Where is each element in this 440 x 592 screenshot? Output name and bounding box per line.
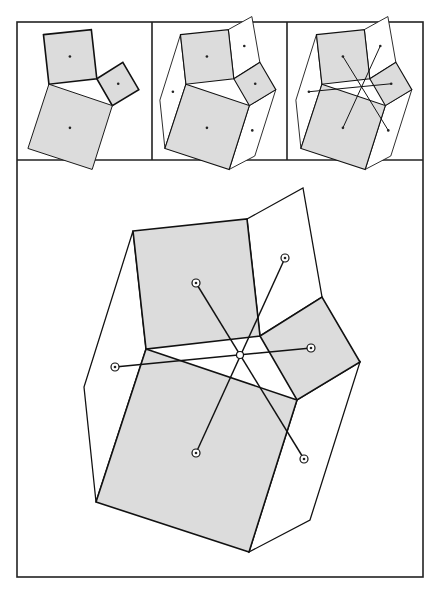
upper-right-quad-center <box>379 45 382 48</box>
bottom-square-center-dot <box>195 452 198 455</box>
top-square-center <box>69 55 72 58</box>
bottom-square-center <box>342 127 345 130</box>
diagram <box>0 0 440 592</box>
panel-main <box>84 188 360 552</box>
panel-3 <box>296 17 412 170</box>
panel-1 <box>28 30 139 170</box>
upper-right-quad-center-dot <box>284 257 287 260</box>
lower-right-quad-center <box>251 129 254 132</box>
left-quad-center-dot <box>114 366 117 369</box>
upper-right-quad-center <box>243 45 246 48</box>
left-quad-center <box>172 90 175 93</box>
panel-2 <box>160 17 276 170</box>
bottom-square-center <box>69 127 72 130</box>
right-square-center-dot <box>310 347 313 350</box>
right-square-center <box>390 82 393 85</box>
right-square-center <box>117 82 120 85</box>
lower-right-quad-center-dot <box>303 458 306 461</box>
lower-right-quad-center <box>387 129 390 132</box>
bottom-square-center <box>206 127 209 130</box>
left-quad-center <box>308 90 311 93</box>
top-square-center <box>206 55 209 58</box>
top-square-center-dot <box>195 282 198 285</box>
right-square-center <box>254 82 257 85</box>
top-square-center <box>342 55 345 58</box>
concurrency-point <box>237 352 244 359</box>
